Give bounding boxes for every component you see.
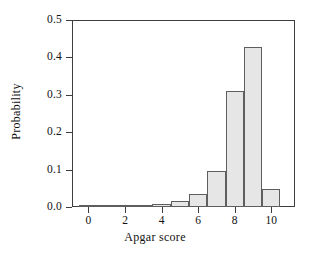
x-axis-tick-label: 10 — [251, 214, 291, 226]
x-axis-tick-label: 0 — [68, 214, 108, 226]
y-axis-tick-label: 0.0 — [2, 201, 62, 213]
y-axis-tick-label: 0.5 — [2, 14, 62, 26]
apgar-score-histogram: 0.00.10.20.30.40.5 0246810 Apgar score P… — [0, 0, 310, 254]
bar — [207, 171, 225, 207]
y-axis-tick — [66, 132, 72, 133]
bar — [262, 189, 280, 207]
y-axis-tick — [66, 57, 72, 58]
x-axis-title: Apgar score — [0, 231, 310, 244]
y-axis-tick — [66, 170, 72, 171]
bar — [171, 201, 189, 207]
bar — [134, 205, 152, 207]
bar — [98, 205, 116, 207]
y-axis-tick — [66, 207, 72, 208]
bar — [189, 194, 207, 207]
bar — [226, 91, 244, 207]
y-axis-tick — [66, 20, 72, 21]
x-axis-tick — [162, 207, 163, 213]
x-axis-tick — [235, 207, 236, 213]
x-axis-tick-label: 8 — [215, 214, 255, 226]
bar — [244, 47, 262, 207]
x-axis-tick-label: 6 — [178, 214, 218, 226]
x-axis-tick — [125, 207, 126, 213]
x-axis-tick-label: 4 — [142, 214, 182, 226]
x-axis-tick — [198, 207, 199, 213]
y-axis-title: Probability — [10, 52, 23, 172]
y-axis-tick — [66, 95, 72, 96]
bars-layer — [72, 20, 295, 207]
x-axis-tick — [88, 207, 89, 213]
x-axis-tick-label: 2 — [105, 214, 145, 226]
x-axis-tick — [271, 207, 272, 213]
